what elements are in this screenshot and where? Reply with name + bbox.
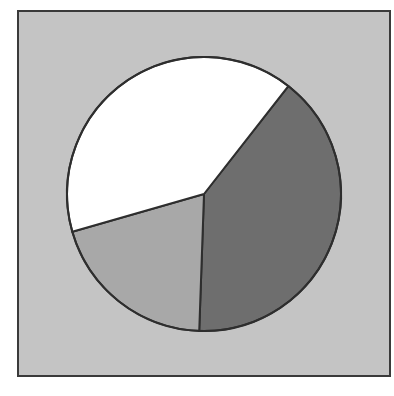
pie-chart [0, 0, 394, 396]
chart-stage [0, 0, 394, 396]
